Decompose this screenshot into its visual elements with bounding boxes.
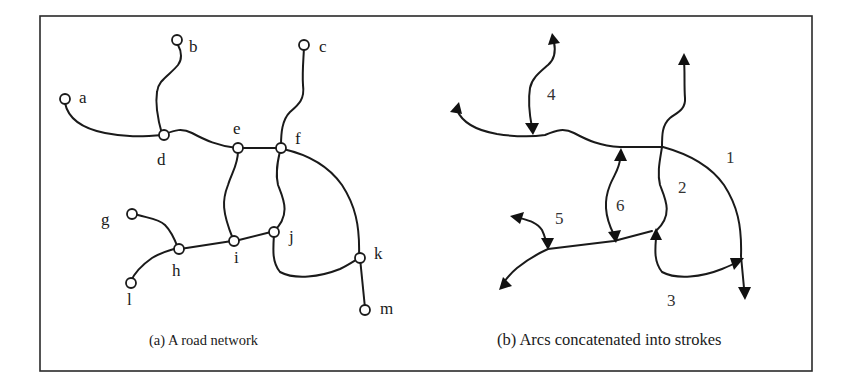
node-g <box>127 209 137 219</box>
arrow-stroke-5-start <box>510 212 524 224</box>
node-i <box>229 236 239 246</box>
label-c: c <box>319 37 327 56</box>
road-k-m <box>360 258 365 308</box>
label-m: m <box>380 299 393 318</box>
node-a <box>60 94 70 104</box>
arrow-stroke-4-start <box>548 33 560 45</box>
stroke-h-i-j <box>548 231 652 249</box>
label-f: f <box>295 129 301 148</box>
road-l-h <box>131 248 177 281</box>
arrow-stroke-1-start <box>450 102 462 114</box>
arrow-stroke-3-start <box>650 228 662 240</box>
road-f-k <box>283 149 359 256</box>
arrow-stroke-4-end <box>525 123 539 135</box>
panel-b-strokes: 1 2 3 4 5 6 (b) Arcs concatenated into s… <box>450 33 751 349</box>
label-l: l <box>127 290 132 309</box>
arrow-stroke-1-end <box>738 287 751 300</box>
stroke-label-5: 5 <box>555 209 564 228</box>
road-b-d <box>156 45 181 134</box>
figure-frame <box>40 16 812 371</box>
label-h: h <box>172 261 181 280</box>
label-a: a <box>79 88 87 107</box>
caption-a: (a) A road network <box>149 332 259 349</box>
label-e: e <box>233 119 241 138</box>
label-b: b <box>189 37 198 56</box>
stroke-label-4: 4 <box>547 85 556 104</box>
node-k <box>355 253 365 263</box>
stroke-label-2: 2 <box>678 178 687 197</box>
label-i: i <box>234 248 239 267</box>
arrow-stroke-2-end <box>678 53 690 65</box>
caption-b: (b) Arcs concatenated into strokes <box>497 330 722 349</box>
road-a-d <box>65 103 163 136</box>
label-j: j <box>288 227 294 246</box>
node-j <box>269 227 279 237</box>
stroke-3 <box>655 238 737 277</box>
node-e <box>233 143 243 153</box>
arrow-stroke-6-start <box>614 148 627 161</box>
stroke-1 <box>457 110 744 288</box>
node-d <box>159 130 169 140</box>
node-c <box>299 40 309 50</box>
label-d: d <box>157 150 166 169</box>
road-i-j <box>235 232 271 241</box>
stroke-5-lower <box>504 249 548 282</box>
node-h <box>174 244 184 254</box>
road-f-j <box>273 151 285 232</box>
road-j-k <box>273 234 359 277</box>
road-h-i <box>180 241 232 249</box>
stroke-label-3: 3 <box>667 291 676 310</box>
node-b <box>172 35 182 45</box>
road-g-h <box>132 213 178 248</box>
node-m <box>360 305 370 315</box>
stroke-label-6: 6 <box>616 196 625 215</box>
road-network-figure: a b c d e f g h i j k l m (a) A road net… <box>0 0 850 383</box>
node-f <box>276 143 286 153</box>
panel-a-road-network: a b c d e f g h i j k l m (a) A road net… <box>60 35 393 349</box>
road-d-e <box>165 130 237 148</box>
label-g: g <box>101 210 110 229</box>
node-l <box>126 278 136 288</box>
stroke-label-1: 1 <box>726 148 735 167</box>
road-e-i <box>224 151 238 239</box>
label-k: k <box>374 244 383 263</box>
